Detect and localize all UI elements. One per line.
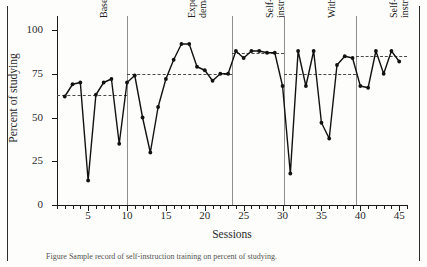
data-point xyxy=(265,51,269,55)
x-tick-label-40: 40 xyxy=(355,210,366,221)
data-point xyxy=(358,84,362,88)
x-tick-label-25: 25 xyxy=(238,210,249,221)
data-point xyxy=(187,42,191,46)
data-point xyxy=(86,179,90,183)
data-point xyxy=(304,84,308,88)
data-point xyxy=(141,116,145,120)
data-point xyxy=(312,49,316,53)
x-tick-label-35: 35 xyxy=(316,210,327,221)
data-point xyxy=(234,49,238,53)
data-point xyxy=(288,172,292,176)
x-tick-label-30: 30 xyxy=(277,210,288,221)
data-point xyxy=(281,84,285,88)
data-point xyxy=(382,72,386,76)
data-point xyxy=(218,72,222,76)
data-point xyxy=(180,42,184,46)
data-point xyxy=(102,81,106,85)
data-point xyxy=(242,56,246,60)
plot-area: 0255075100 51015202530354045 BaselineExp… xyxy=(57,16,407,206)
x-tick xyxy=(407,205,408,209)
x-tick-label-15: 15 xyxy=(160,210,171,221)
data-point xyxy=(335,63,339,67)
x-tick-label-5: 5 xyxy=(85,210,91,221)
data-point xyxy=(351,56,355,60)
x-tick-label-10: 10 xyxy=(122,210,133,221)
figure-container: 0255075100 51015202530354045 BaselineExp… xyxy=(0,0,427,267)
data-point xyxy=(226,72,230,76)
data-point xyxy=(296,49,300,53)
data-point xyxy=(327,137,331,141)
data-point xyxy=(390,49,394,53)
data-point xyxy=(320,121,324,125)
series-polyline xyxy=(65,44,399,181)
data-point xyxy=(257,49,261,53)
data-point xyxy=(148,151,152,155)
data-point xyxy=(211,79,215,83)
data-point xyxy=(71,82,75,86)
data-point xyxy=(125,81,129,85)
y-axis-title: Percent of studying xyxy=(7,23,19,173)
data-point xyxy=(133,74,137,78)
data-point xyxy=(343,54,347,58)
data-point xyxy=(110,77,114,81)
x-tick-label-20: 20 xyxy=(199,210,210,221)
x-tick-label-45: 45 xyxy=(394,210,405,221)
data-point xyxy=(195,65,199,69)
data-point xyxy=(172,58,176,62)
data-point xyxy=(203,68,207,72)
data-point xyxy=(374,49,378,53)
data-point xyxy=(397,60,401,64)
data-series-line xyxy=(57,16,407,206)
data-point xyxy=(250,49,254,53)
data-point xyxy=(78,81,82,85)
data-point xyxy=(94,93,98,97)
data-point xyxy=(366,86,370,90)
data-point xyxy=(273,51,277,55)
data-point xyxy=(156,105,160,109)
data-point xyxy=(63,95,67,99)
x-axis-title: Sessions xyxy=(57,228,407,240)
data-point xyxy=(164,77,168,81)
y-tick-label-0: 0 xyxy=(3,199,43,210)
data-point xyxy=(117,142,121,146)
figure-caption: Figure Sample record of self-instruction… xyxy=(46,252,406,262)
page-rule-right xyxy=(419,6,420,261)
